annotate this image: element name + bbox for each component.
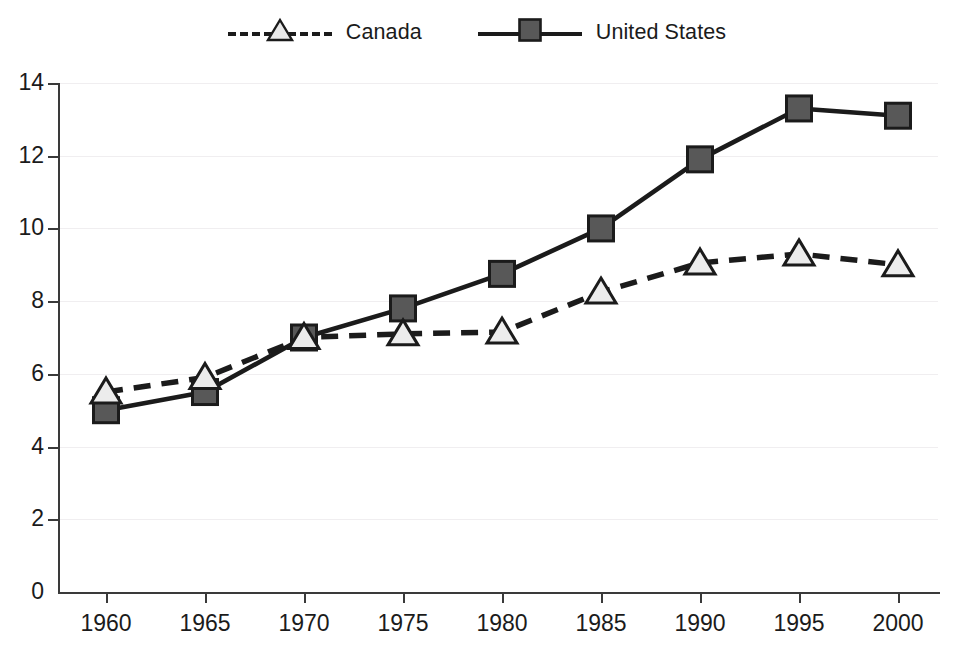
data-point-square[interactable]	[490, 261, 515, 286]
series-line-united-states	[106, 108, 898, 410]
data-point-square[interactable]	[688, 147, 713, 172]
data-point-square[interactable]	[787, 96, 812, 121]
data-point-square[interactable]	[886, 103, 911, 128]
data-point-triangle[interactable]	[883, 251, 913, 276]
data-point-triangle[interactable]	[586, 278, 616, 303]
series-layer	[0, 0, 954, 653]
chart-page: Canada United States	[0, 0, 954, 653]
data-point-square[interactable]	[589, 216, 614, 241]
data-point-triangle[interactable]	[190, 363, 220, 388]
